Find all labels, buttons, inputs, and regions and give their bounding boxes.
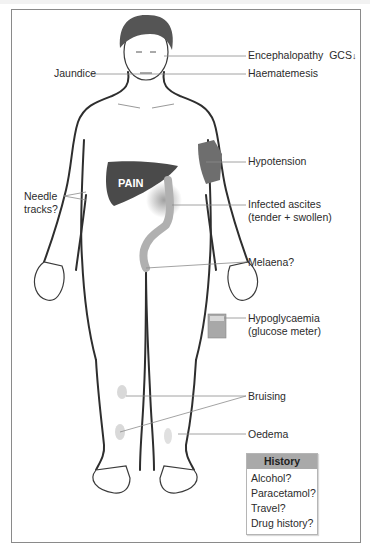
history-item: Alcohol? bbox=[251, 471, 313, 486]
pain-label: PAIN bbox=[118, 177, 144, 189]
ascites-line1: Infected ascites bbox=[248, 198, 332, 211]
history-item: Paracetamol? bbox=[251, 486, 313, 501]
hypoglycaemia-line2: (glucose meter) bbox=[248, 325, 321, 338]
encephalopathy-text: Encephalopathy bbox=[248, 49, 323, 61]
glucose-meter-icon bbox=[208, 314, 226, 338]
history-list: Alcohol? Paracetamol? Travel? Drug histo… bbox=[247, 469, 317, 534]
head bbox=[120, 15, 173, 80]
ascites-line2: (tender + swollen) bbox=[248, 211, 332, 224]
label-bruising: Bruising bbox=[248, 390, 286, 403]
down-arrow-icon: ↓ bbox=[352, 51, 357, 61]
history-box: History Alcohol? Paracetamol? Travel? Dr… bbox=[246, 453, 318, 535]
label-encephalopathy: Encephalopathy GCS↓ bbox=[248, 49, 356, 63]
history-title: History bbox=[247, 454, 317, 469]
needle-tracks-line1: Needle bbox=[24, 190, 58, 203]
gcs-text: GCS bbox=[329, 49, 352, 61]
label-hypotension: Hypotension bbox=[248, 155, 306, 168]
label-needle-tracks: Needle tracks? bbox=[24, 190, 58, 216]
history-item: Drug history? bbox=[251, 516, 313, 531]
history-item: Travel? bbox=[251, 501, 313, 516]
label-hypoglycaemia: Hypoglycaemia (glucose meter) bbox=[248, 312, 321, 338]
label-infected-ascites: Infected ascites (tender + swollen) bbox=[248, 198, 332, 224]
label-melaena: Melaena? bbox=[248, 256, 294, 269]
label-jaundice: Jaundice bbox=[54, 67, 96, 80]
hypoglycaemia-line1: Hypoglycaemia bbox=[248, 312, 321, 325]
needle-tracks-line2: tracks? bbox=[24, 203, 58, 216]
label-oedema: Oedema bbox=[248, 428, 288, 441]
label-haematemesis: Haematemesis bbox=[248, 67, 318, 80]
